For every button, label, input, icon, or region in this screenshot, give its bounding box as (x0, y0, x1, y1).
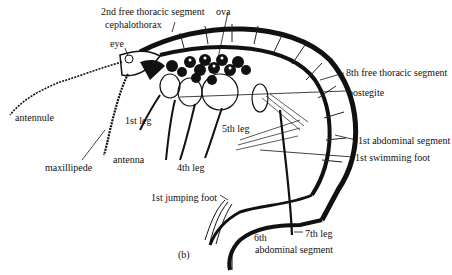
label-6th: 6th (254, 232, 267, 243)
muscle-hatching (236, 94, 308, 150)
label-cephalothorax: cephalothorax (105, 19, 162, 30)
label-5th-leg: 5th leg (222, 123, 250, 134)
label-1st-abdominal-segment: 1st abdominal segment (358, 135, 450, 146)
panel-label: (b) (178, 249, 190, 260)
eye-structure (125, 55, 133, 63)
label-eye: eye (110, 38, 124, 49)
label-1st-jumping-foot: 1st jumping foot (151, 192, 217, 203)
label-antennule: antennule (15, 112, 54, 123)
seventh-leg-structure (280, 110, 292, 235)
label-abdominal-segment: abdominal segment (255, 244, 333, 255)
label-oostegite: oostegite (348, 87, 384, 98)
thoracic-legs (140, 95, 222, 160)
label-2nd-free-thoracic-segment: 2nd free thoracic segment (101, 6, 205, 17)
label-maxillipede: maxillipede (45, 162, 92, 173)
label-1st-leg: 1st leg (125, 115, 151, 126)
label-1st-swimming-foot: 1st swimming foot (355, 152, 430, 163)
label-7th-leg: 7th leg (305, 228, 333, 239)
label-antenna: antenna (113, 154, 144, 165)
label-4th-leg: 4th leg (177, 162, 205, 173)
label-ova: ova (216, 6, 230, 17)
label-8th-free-thoracic-segment: 8th free thoracic segment (346, 67, 447, 78)
antennule-structure (10, 62, 122, 115)
